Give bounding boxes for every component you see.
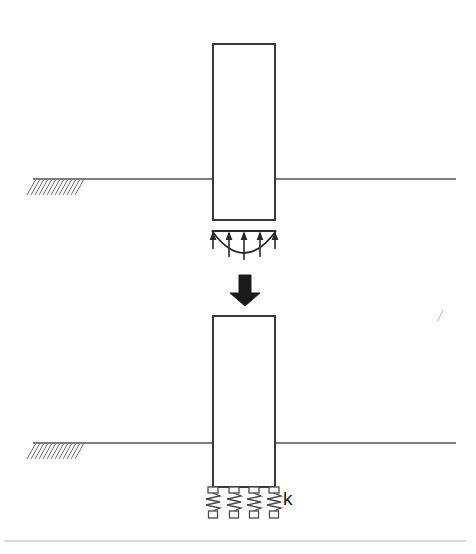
bottom-column	[213, 316, 275, 487]
spring-stiffness-label: k	[283, 488, 293, 509]
bottom-panel: k	[27, 316, 456, 518]
spring-icon	[267, 487, 281, 518]
spring-support-group	[206, 487, 281, 518]
ground-hatch-icon	[27, 443, 84, 459]
engineering-diagram: k	[0, 0, 476, 554]
pressure-arrow-icon	[241, 231, 248, 260]
soil-pressure-diagram	[210, 231, 279, 260]
pressure-arrow-icon	[272, 231, 279, 249]
pressure-arrow-icon	[257, 231, 264, 257]
figure-root: k	[0, 0, 476, 554]
spring-icon	[206, 487, 220, 518]
pressure-arrow-icon	[226, 231, 233, 257]
top-panel	[27, 44, 456, 260]
idealization-arrow-icon	[230, 275, 260, 306]
scan-speck	[438, 310, 443, 321]
pressure-arrow-icon	[210, 231, 217, 249]
spring-icon	[227, 487, 241, 518]
ground-hatch-icon	[27, 179, 84, 195]
top-column	[213, 44, 275, 220]
spring-icon	[247, 487, 261, 518]
pressure-arrow-group	[210, 231, 279, 260]
